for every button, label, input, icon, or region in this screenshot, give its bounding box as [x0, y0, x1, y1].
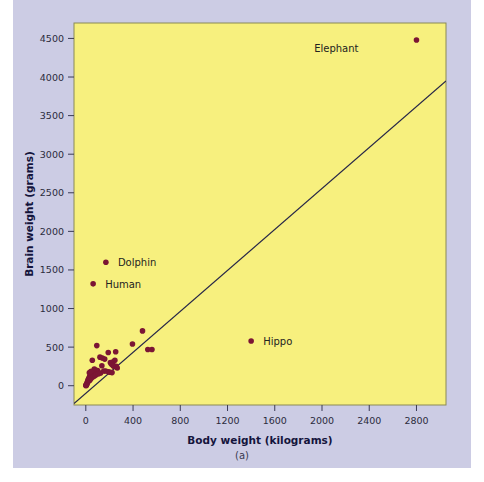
- x-tick-label: 400: [124, 415, 142, 426]
- data-point: [414, 37, 420, 43]
- x-tick-label: 2800: [404, 415, 428, 426]
- data-point: [90, 357, 96, 363]
- y-tick-label: 1500: [40, 264, 64, 275]
- y-tick-label: 3500: [40, 110, 64, 121]
- y-tick-label: 0: [58, 380, 64, 391]
- data-point: [130, 341, 136, 347]
- x-tick-label: 2000: [310, 415, 334, 426]
- data-point: [109, 370, 115, 376]
- data-point: [88, 368, 94, 374]
- y-tick-label: 2500: [40, 187, 64, 198]
- data-point: [90, 281, 96, 287]
- figure-caption: (a): [235, 450, 249, 461]
- data-point: [94, 343, 100, 349]
- x-tick-label: 1600: [263, 415, 287, 426]
- figure-panel: 050010001500200025003000350040004500 040…: [13, 0, 471, 468]
- y-axis-title: Brain weight (grams): [23, 151, 35, 277]
- plot-area-background: [74, 23, 446, 405]
- data-point: [248, 338, 254, 344]
- y-tick-label: 500: [46, 342, 64, 353]
- y-axis-ticks: 050010001500200025003000350040004500: [40, 33, 74, 391]
- data-point: [103, 368, 109, 374]
- data-point: [113, 349, 119, 355]
- data-point: [105, 350, 111, 356]
- y-tick-label: 1000: [40, 303, 64, 314]
- data-point: [114, 365, 120, 371]
- data-point: [140, 328, 146, 334]
- x-tick-label: 0: [83, 415, 89, 426]
- annotation-label: Elephant: [314, 43, 358, 54]
- y-tick-label: 2000: [40, 226, 64, 237]
- data-point: [98, 370, 104, 376]
- annotation-label: Hippo: [263, 336, 292, 347]
- annotation-label: Dolphin: [118, 257, 156, 268]
- y-tick-label: 4000: [40, 72, 64, 83]
- annotation-label: Human: [105, 279, 141, 290]
- x-tick-label: 1200: [215, 415, 239, 426]
- data-point: [149, 347, 155, 353]
- x-axis-ticks: 040080012001600200024002800: [83, 405, 429, 426]
- x-tick-label: 800: [171, 415, 189, 426]
- y-tick-label: 4500: [40, 33, 64, 44]
- scatter-chart: 050010001500200025003000350040004500 040…: [13, 0, 471, 468]
- data-point: [99, 363, 105, 369]
- x-tick-label: 2400: [357, 415, 381, 426]
- y-tick-label: 3000: [40, 149, 64, 160]
- data-point: [102, 356, 108, 362]
- data-point: [103, 259, 109, 265]
